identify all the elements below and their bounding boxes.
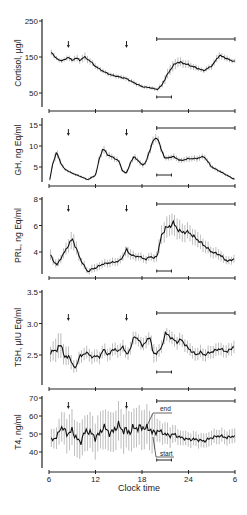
annotation-end: end — [160, 405, 171, 412]
annotation-start: start — [160, 450, 173, 457]
y-axis-title: T4, ng/ml — [13, 414, 23, 450]
y-tick-label: 3.5 — [27, 288, 39, 297]
y-tick-label: 3.0 — [27, 320, 39, 329]
panel-gh: 51015GH, ng Eq/ml — [13, 118, 235, 188]
y-tick-label: 70 — [29, 394, 38, 403]
error-bars — [50, 134, 233, 181]
mean-line — [50, 138, 235, 179]
x-tick-label: 24 — [184, 475, 193, 484]
y-tick-label: 10 — [29, 142, 38, 151]
panel-tsh: 2.53.03.5TSH, µIU Eq/ml — [13, 288, 235, 391]
panel-cortisol: 50150250Cortisol, µg/l — [13, 17, 235, 113]
mean-line — [51, 221, 234, 272]
x-tick-label: 6 — [47, 475, 52, 484]
hormone-profile-figure: 50150250Cortisol, µg/l51015GH, ng Eq/ml4… — [0, 0, 247, 515]
y-tick-label: 250 — [25, 17, 39, 26]
mean-line — [51, 53, 234, 90]
error-bars — [51, 214, 234, 275]
error-bars — [51, 50, 234, 92]
y-tick-label: 8 — [34, 195, 39, 204]
y-tick-label: 60 — [29, 412, 38, 421]
y-tick-label: 6 — [34, 222, 39, 231]
y-tick-label: 40 — [29, 448, 38, 457]
x-tick-label: 12 — [91, 475, 100, 484]
mean-line — [51, 421, 234, 445]
error-bars — [51, 328, 234, 373]
y-tick-label: 2.5 — [27, 351, 39, 360]
y-axis-title: TSH, µIU Eq/ml — [13, 308, 23, 367]
error-bars — [51, 401, 234, 460]
mean-line — [51, 332, 234, 368]
y-tick-label: 5 — [34, 163, 39, 172]
panel-prl: 468PRL, ng Eq/ml — [13, 195, 235, 280]
y-tick-label: 15 — [29, 121, 38, 130]
panel-t4: 40506070T4, ng/mlendstart61218246 — [13, 394, 238, 484]
y-axis-title: Cortisol, µg/l — [13, 39, 23, 87]
y-tick-label: 50 — [29, 430, 38, 439]
x-axis-title: Clock time — [118, 483, 160, 493]
x-tick-label: 6 — [233, 475, 238, 484]
chart-canvas: 50150250Cortisol, µg/l51015GH, ng Eq/ml4… — [0, 0, 247, 515]
y-axis-title: PRL, ng Eq/ml — [13, 208, 23, 263]
y-tick-label: 4 — [34, 248, 39, 257]
y-tick-label: 150 — [25, 53, 39, 62]
y-tick-label: 50 — [29, 89, 38, 98]
y-axis-title: GH, ng Eq/ml — [13, 124, 23, 175]
